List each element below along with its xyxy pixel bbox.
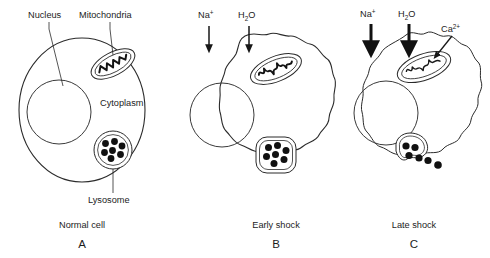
- caption-panel-c: Late shock: [392, 220, 437, 230]
- label-nucleus: Nucleus: [28, 10, 62, 20]
- letter-panel-c: C: [410, 238, 418, 250]
- caption-panel-a: Normal cell: [59, 220, 105, 230]
- cell-shock-diagram: Nucleus Mitochondria Cytoplasm Lysosome …: [0, 0, 490, 258]
- letter-panel-b: B: [272, 238, 280, 250]
- label-mitochondria: Mitochondria: [79, 10, 132, 20]
- caption-panel-b: Early shock: [252, 220, 300, 230]
- label-cytoplasm: Cytoplasm: [100, 98, 144, 108]
- lysosome-a: [94, 131, 132, 169]
- lysosome-b: [256, 137, 296, 173]
- letter-panel-a: A: [78, 238, 86, 250]
- label-lysosome: Lysosome: [88, 195, 130, 205]
